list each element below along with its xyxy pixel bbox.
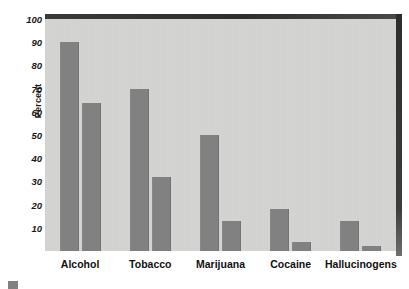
bar-tobacco-series1	[130, 89, 149, 251]
plot-canvas	[45, 19, 396, 251]
y-tick-90: 90	[14, 37, 42, 48]
y-tick-80: 80	[14, 60, 42, 71]
y-tick-50: 50	[14, 130, 42, 141]
bar-group-cocaine	[256, 19, 326, 251]
y-axis-tick-labels: 100908070605040302010	[14, 14, 42, 256]
y-tick-10: 10	[14, 222, 42, 233]
bar-group-hallucinogens	[326, 19, 396, 251]
bar-marijuana-series1	[200, 135, 219, 251]
x-axis-category-labels: AlcoholTobaccoMarijuanaCocaineHallucinog…	[45, 258, 396, 274]
bar-group-tobacco	[115, 19, 185, 251]
x-label-alcohol: Alcohol	[61, 258, 100, 270]
bar-hallucinogens-series1	[340, 221, 359, 251]
y-tick-100: 100	[14, 14, 42, 25]
bar-marijuana-series2	[222, 221, 241, 251]
bar-hallucinogens-series2	[362, 246, 381, 251]
y-tick-70: 70	[14, 83, 42, 94]
plot-area	[45, 14, 402, 256]
x-label-hallucinogens: Hallucinogens	[325, 258, 397, 270]
legend-swatch	[8, 281, 18, 289]
y-tick-20: 20	[14, 199, 42, 210]
x-label-tobacco: Tobacco	[129, 258, 171, 270]
bar-alcohol-series2	[82, 103, 101, 251]
bar-chart-figure: Percent 100908070605040302010 AlcoholTob…	[0, 0, 409, 289]
bar-tobacco-series2	[152, 177, 171, 251]
plot-right-shadow	[396, 14, 402, 256]
y-tick-60: 60	[14, 106, 42, 117]
y-tick-30: 30	[14, 176, 42, 187]
x-label-marijuana: Marijuana	[196, 258, 245, 270]
bar-group-marijuana	[185, 19, 255, 251]
bar-group-alcohol	[45, 19, 115, 251]
bar-cocaine-series2	[292, 242, 311, 251]
x-label-cocaine: Cocaine	[270, 258, 311, 270]
bar-alcohol-series1	[60, 42, 79, 251]
y-tick-40: 40	[14, 153, 42, 164]
bar-cocaine-series1	[270, 209, 289, 251]
chart-legend	[8, 281, 23, 289]
